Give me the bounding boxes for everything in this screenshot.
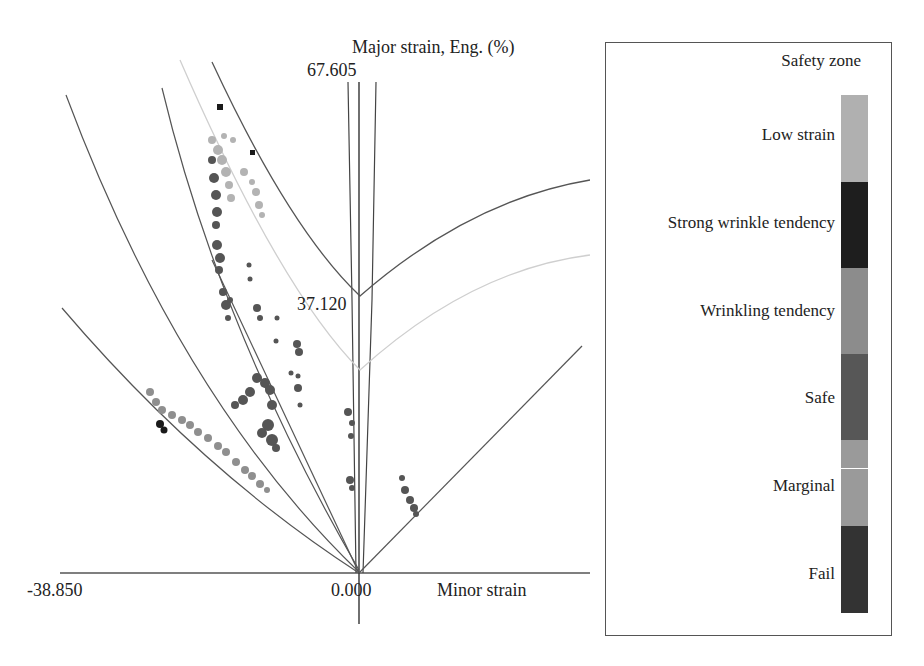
- legend-label-fail: Fail: [809, 564, 835, 584]
- swatch-low-strain: [841, 95, 868, 182]
- wrinkling-tendency-points: [146, 388, 270, 493]
- legend-label-safe: Safe: [805, 388, 835, 408]
- wrinkle-limit-curve-1: [162, 88, 359, 570]
- swatch-marginal-upper: [841, 440, 868, 468]
- legend-label-marginal: Marginal: [773, 476, 835, 496]
- strong-wrinkle-points: [156, 104, 255, 434]
- origin-tick-label: 0.000: [331, 580, 372, 601]
- legend-title: Safety zone: [781, 51, 861, 71]
- flc0-tick-label: 37.120: [297, 294, 347, 315]
- plane-strain-line-right: [363, 82, 376, 573]
- wrinkle-limit-curve-2: [66, 95, 359, 572]
- plane-strain-line-left: [348, 82, 356, 573]
- y-max-tick-label: 67.605: [307, 60, 357, 81]
- legend-label-strong-wrinkle: Strong wrinkle tendency: [668, 213, 835, 233]
- y-axis-title: Major strain, Eng. (%): [352, 37, 514, 58]
- legend-label-wrinkling: Wrinkling tendency: [700, 301, 835, 321]
- swatch-wrinkling: [841, 268, 868, 354]
- swatch-strong-wrinkle: [841, 182, 868, 268]
- swatch-fail: [841, 526, 868, 613]
- forming-limit-diagram: [0, 0, 600, 666]
- flc-curve: [212, 62, 590, 296]
- legend-label-low-strain: Low strain: [762, 125, 835, 145]
- safety-zone-legend: Safety zone Low strain Strong wrinkle te…: [605, 42, 892, 636]
- swatch-marginal: [841, 469, 868, 526]
- x-axis-title: Minor strain: [437, 580, 527, 601]
- swatch-safe: [841, 354, 868, 440]
- strain-path-ray-2: [359, 346, 582, 573]
- x-min-tick-label: -38.850: [27, 580, 83, 601]
